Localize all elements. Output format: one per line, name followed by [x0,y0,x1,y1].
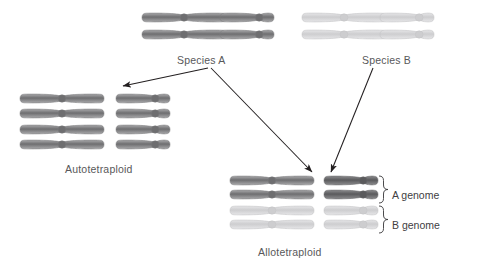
a-genome-brace [379,176,388,203]
chromosome [140,27,228,45]
label-species-a: Species A [177,54,226,66]
chromosome [322,217,380,235]
chromosome [18,137,106,155]
label-allotetraploid: Allotetraploid [258,246,322,258]
chromosome [114,137,172,155]
species-b-to-allotetraploid [331,68,373,172]
chromosome [378,27,436,45]
species-a-to-autotetraploid [123,68,208,86]
b-genome-brace [379,206,388,233]
chromosome [228,217,316,235]
diagram-canvas: Species A Species B Autotetraploid Allot… [0,0,477,278]
chromosome [300,27,388,45]
chromosome [218,10,276,28]
chromosome [300,10,388,28]
species-a-to-allotetraploid [211,68,312,172]
label-b-genome: B genome [392,219,440,231]
label-autotetraploid: Autotetraploid [65,163,133,175]
label-species-b: Species B [362,54,411,66]
label-a-genome: A genome [392,189,439,201]
chromosome [218,27,276,45]
chromosome [378,10,436,28]
chromosome [140,10,228,28]
